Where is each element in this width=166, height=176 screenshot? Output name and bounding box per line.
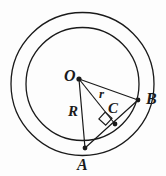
point-a-dot xyxy=(83,146,88,151)
geometry-figure: O A B C R r xyxy=(0,0,166,176)
label-point-b: B xyxy=(146,91,157,107)
label-point-o: O xyxy=(64,68,76,84)
point-c-dot xyxy=(113,122,118,127)
point-b-dot xyxy=(136,98,141,103)
label-radius-small: r xyxy=(99,87,104,100)
label-radius-big: R xyxy=(68,104,78,119)
point-o-dot xyxy=(76,76,81,81)
label-point-a: A xyxy=(77,157,88,173)
segment-oa xyxy=(79,79,85,148)
geometry-canvas xyxy=(0,0,166,176)
label-point-c: C xyxy=(108,101,118,116)
